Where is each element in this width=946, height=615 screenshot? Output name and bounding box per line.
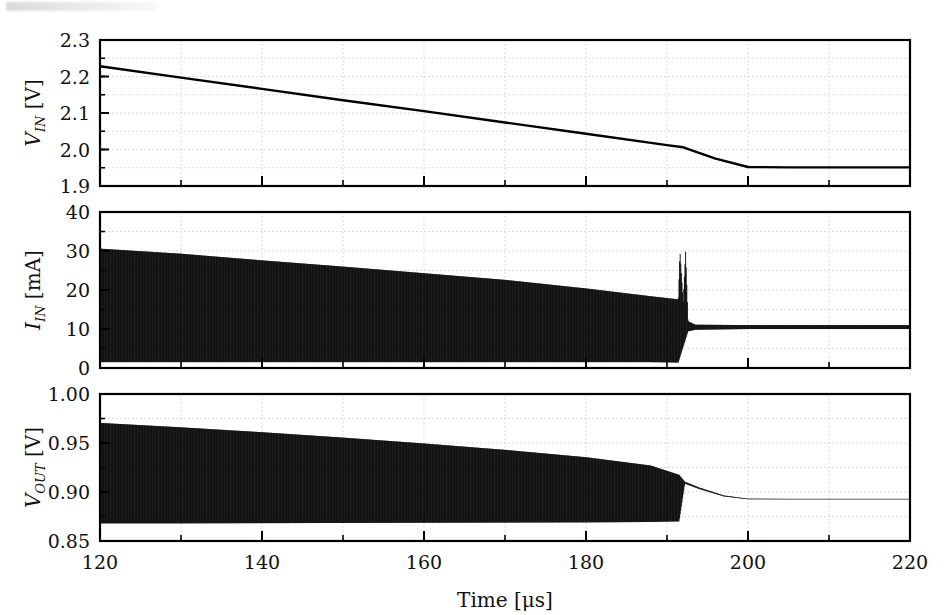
y-tick-label: 0.95 xyxy=(48,432,90,454)
x-tick-label: 200 xyxy=(730,551,766,573)
y-tick-label: 2.0 xyxy=(60,139,90,161)
y-tick-label: 0.90 xyxy=(48,481,90,503)
x-tick-label: 180 xyxy=(568,551,604,573)
trace-ripple-band xyxy=(100,423,909,523)
multi-panel-plot: 1.92.02.12.22.3VIN [V]010203040IIN [mA]0… xyxy=(0,0,946,615)
scan-artifact xyxy=(6,2,156,11)
y-tick-label: 2.3 xyxy=(60,29,90,51)
y-tick-label: 30 xyxy=(66,240,90,262)
y-tick-label: 40 xyxy=(66,201,90,223)
y-tick-label: 0 xyxy=(78,357,90,379)
y-tick-label: 10 xyxy=(66,318,90,340)
y-axis-label: IIN [mA] xyxy=(21,250,48,331)
panel-3: 0.850.900.951.00120140160180200220VOUT [… xyxy=(21,383,928,573)
x-tick-label: 160 xyxy=(406,551,442,573)
y-axis-label: VIN [V] xyxy=(21,79,48,146)
y-tick-label: 1.9 xyxy=(60,175,90,197)
y-axis-label: VOUT [V] xyxy=(21,427,48,508)
y-tick-label: 20 xyxy=(66,279,90,301)
panel-1: 1.92.02.12.22.3VIN [V] xyxy=(21,29,910,197)
y-tick-label: 2.2 xyxy=(60,66,90,88)
panel-2: 010203040IIN [mA] xyxy=(21,201,910,379)
y-tick-label: 1.00 xyxy=(48,383,90,405)
y-tick-label: 0.85 xyxy=(48,530,90,552)
x-tick-label: 220 xyxy=(892,551,928,573)
x-axis-label: Time [μs] xyxy=(457,588,553,612)
y-tick-label: 2.1 xyxy=(60,102,90,124)
figure-canvas: 1.92.02.12.22.3VIN [V]010203040IIN [mA]0… xyxy=(0,0,946,615)
x-tick-label: 120 xyxy=(82,551,118,573)
x-tick-label: 140 xyxy=(244,551,280,573)
